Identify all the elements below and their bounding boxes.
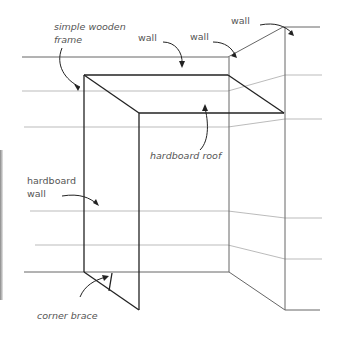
arrow-wall-right [213, 42, 235, 55]
diagram-drawing [0, 0, 341, 339]
room-corner-lines [22, 27, 320, 310]
wall-guide-lines [22, 75, 322, 259]
label-hardboard-roof: hardboard roof [150, 150, 221, 161]
corner-brace-line [109, 273, 112, 291]
label-wall-right: wall [190, 31, 209, 42]
label-corner-brace: corner brace [37, 310, 98, 321]
label-hardboard-wall-line1: hardboard [27, 175, 76, 186]
wooden-frame [84, 75, 284, 310]
diagram-canvas: simple wooden frame wall wall wall hardb… [0, 0, 341, 339]
arrow-brace [80, 277, 106, 297]
arrow-roof [200, 108, 207, 150]
arrow-hardboard-wall [62, 195, 97, 204]
label-hardboard-wall-line2: wall [27, 188, 46, 199]
label-frame-line1: simple wooden [54, 21, 126, 32]
arrow-frame [60, 48, 80, 87]
arrow-wall-far [260, 24, 292, 33]
label-frame-line2: frame [54, 34, 82, 45]
arrow-wall-center [163, 42, 182, 64]
label-wall-center: wall [138, 32, 157, 43]
label-wall-far: wall [231, 15, 250, 26]
